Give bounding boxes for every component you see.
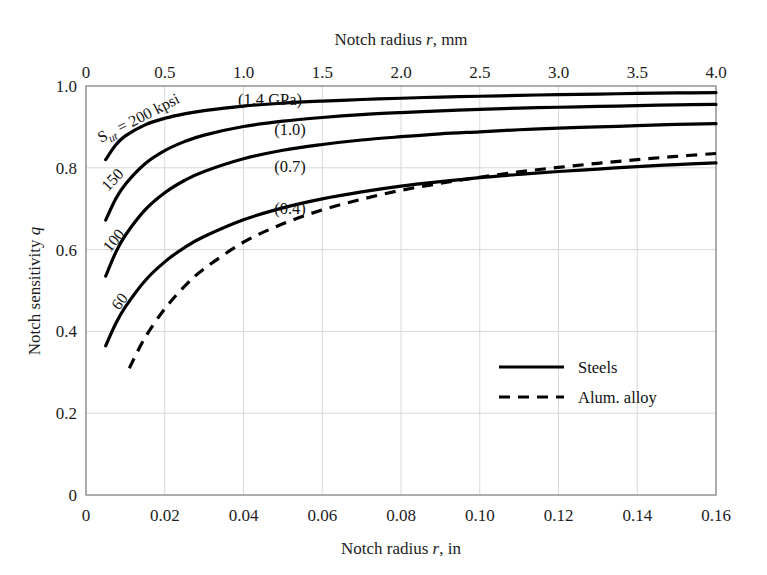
- left-tick-label: 0.2: [56, 404, 77, 423]
- notch-sensitivity-chart: 00.51.01.52.02.53.03.54.0 00.020.040.060…: [0, 0, 767, 575]
- bottom-tick-label: 0.02: [150, 506, 180, 525]
- annotation-1-4-gpa: (1.4 GPa): [238, 90, 302, 109]
- y-axis-title: Notch sensitivity q: [25, 226, 44, 355]
- top-tick-label: 1.5: [312, 63, 333, 82]
- bottom-axis-title: Notch radius r, in: [341, 539, 461, 558]
- bottom-tick-label: 0.04: [229, 506, 259, 525]
- annotation-0-4-gpa: (0.4): [274, 199, 306, 218]
- top-tick-label: 4.0: [705, 63, 726, 82]
- left-tick-label: 0: [69, 486, 78, 505]
- top-tick-label: 1.0: [233, 63, 254, 82]
- annotation-0-7-gpa: (0.7): [274, 157, 306, 176]
- bottom-tick-label: 0.10: [465, 506, 495, 525]
- bottom-tick-label: 0.16: [701, 506, 731, 525]
- bottom-tick-label: 0.14: [622, 506, 652, 525]
- bottom-tick-label: 0.12: [544, 506, 574, 525]
- top-tick-label: 2.5: [469, 63, 490, 82]
- left-tick-label: 1.0: [56, 77, 77, 96]
- top-tick-label: 3.0: [548, 63, 569, 82]
- top-tick-label: 0: [82, 63, 91, 82]
- bottom-axis-tick-labels: 00.020.040.060.080.100.120.140.16: [82, 506, 731, 525]
- top-tick-label: 0.5: [154, 63, 175, 82]
- chart-svg: 00.51.01.52.02.53.03.54.0 00.020.040.060…: [0, 0, 767, 575]
- bottom-tick-label: 0: [82, 506, 91, 525]
- top-axis-title: Notch radius r, mm: [334, 30, 467, 49]
- left-tick-label: 0.6: [56, 241, 77, 260]
- left-tick-label: 0.4: [56, 322, 78, 341]
- bottom-tick-label: 0.08: [386, 506, 416, 525]
- top-tick-label: 3.5: [627, 63, 648, 82]
- left-tick-label: 0.8: [56, 159, 77, 178]
- legend-label-steels: Steels: [578, 358, 617, 377]
- annotation-1-0-gpa: (1.0): [274, 120, 306, 139]
- legend-label-alum-alloy: Alum. alloy: [578, 388, 658, 407]
- top-tick-label: 2.0: [390, 63, 411, 82]
- bottom-tick-label: 0.06: [307, 506, 337, 525]
